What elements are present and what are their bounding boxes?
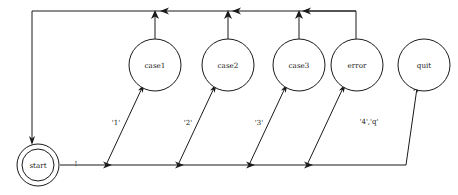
edge-label-to-case1: '1' bbox=[112, 119, 120, 127]
node-quit-label: quit bbox=[417, 61, 432, 70]
state-diagram-canvas: start case1 case2 case3 error quit bbox=[0, 0, 458, 195]
node-case2[interactable]: case2 bbox=[202, 39, 254, 91]
return-riser-error bbox=[306, 11, 356, 39]
dispatch-diagonal-quit bbox=[406, 88, 417, 165]
edge-label-to-case3: '3' bbox=[255, 119, 263, 127]
node-error[interactable]: error bbox=[331, 39, 383, 91]
node-case2-label: case2 bbox=[218, 61, 239, 70]
node-case3[interactable]: case3 bbox=[273, 39, 325, 91]
node-case3-label: case3 bbox=[289, 61, 310, 70]
node-start[interactable]: start bbox=[17, 144, 59, 186]
node-quit[interactable]: quit bbox=[398, 39, 450, 91]
state-diagram-svg: start case1 case2 case3 error quit bbox=[0, 0, 458, 195]
edge-label-group: ! '1' '2' '3' '4','q' bbox=[75, 118, 379, 168]
edge-label-to-case2: '2' bbox=[184, 119, 192, 127]
edge-label-start-out: ! bbox=[75, 160, 78, 168]
node-case1-label: case1 bbox=[145, 61, 166, 70]
node-start-label: start bbox=[29, 161, 46, 170]
node-error-label: error bbox=[348, 61, 367, 70]
node-case1[interactable]: case1 bbox=[129, 39, 181, 91]
edge-label-to-quit: '4','q' bbox=[360, 118, 379, 126]
dispatch-diagonal-error bbox=[307, 88, 343, 165]
